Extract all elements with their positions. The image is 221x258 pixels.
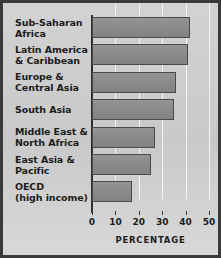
category-label-1: Latin America& Caribbean: [15, 44, 91, 66]
bar-fill: [92, 17, 190, 38]
category-label-line: North Africa: [15, 137, 91, 148]
category-label-line: (high income): [15, 192, 91, 203]
tick-label-40: 40: [174, 217, 198, 227]
tick-label-30: 30: [150, 217, 174, 227]
category-label-line: Middle East &: [15, 126, 91, 137]
bar-fill: [92, 99, 174, 120]
bar-fill: [92, 44, 188, 65]
category-label-line: Latin America: [15, 44, 91, 55]
category-label-line: & Caribbean: [15, 55, 91, 66]
category-label-line: Europe &: [15, 71, 91, 82]
tick-mark-10: [115, 211, 116, 215]
category-label-line: Africa: [15, 28, 91, 39]
category-label-4: Middle East &North Africa: [15, 126, 91, 148]
category-label-5: East Asia &Pacific: [15, 154, 91, 176]
tick-mark-0: [92, 211, 93, 215]
bar-fill: [92, 127, 155, 148]
bar-fill: [92, 72, 176, 93]
x-axis-title: PERCENTAGE: [92, 235, 209, 245]
category-label-line: Central Asia: [15, 82, 91, 93]
category-label-0: Sub-SaharanAfrica: [15, 17, 91, 39]
category-label-6: OECD(high income): [15, 181, 91, 203]
category-label-3: South Asia: [15, 104, 91, 115]
category-label-line: Sub-Saharan: [15, 17, 91, 28]
tick-label-20: 20: [127, 217, 151, 227]
tick-mark-30: [162, 211, 163, 215]
chart-plot-background: Sub-SaharanAfricaLatin America& Caribbea…: [3, 3, 218, 255]
gridline-50: [209, 3, 210, 199]
tick-mark-40: [186, 211, 187, 215]
category-label-2: Europe &Central Asia: [15, 71, 91, 93]
category-label-line: East Asia &: [15, 154, 91, 165]
bar-fill: [92, 181, 132, 202]
category-label-line: OECD: [15, 181, 91, 192]
category-label-line: South Asia: [15, 104, 91, 115]
tick-mark-50: [209, 211, 210, 215]
chart-frame: Sub-SaharanAfricaLatin America& Caribbea…: [0, 0, 221, 258]
tick-label-10: 10: [103, 217, 127, 227]
bar-fill: [92, 154, 151, 175]
tick-label-50: 50: [197, 217, 221, 227]
tick-mark-20: [139, 211, 140, 215]
category-label-line: Pacific: [15, 165, 91, 176]
tick-label-0: 0: [80, 217, 104, 227]
